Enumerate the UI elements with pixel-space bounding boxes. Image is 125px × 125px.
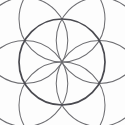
rosette-figure: Six-petal rosette (Seed of Life) A bold …: [0, 0, 125, 125]
rosette-canvas: [0, 0, 125, 125]
